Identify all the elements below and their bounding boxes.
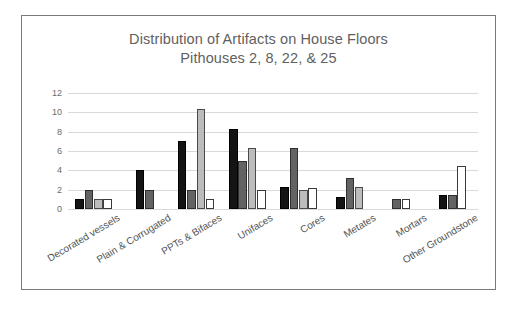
bar	[94, 199, 103, 209]
y-axis-tick-label: 4	[57, 165, 62, 175]
y-axis-tick-label: 10	[52, 107, 62, 117]
gridline: 0	[68, 209, 478, 210]
y-axis-tick-label: 0	[57, 204, 62, 214]
bar-group	[171, 93, 222, 209]
y-axis-tick-label: 12	[52, 88, 62, 98]
bar	[280, 187, 289, 209]
bar	[178, 141, 187, 209]
bar	[402, 199, 411, 209]
y-axis-tick-label: 2	[57, 185, 62, 195]
bar	[85, 190, 94, 209]
bar-group	[427, 93, 478, 209]
chart-container: Distribution of Artifacts on House Floor…	[21, 15, 496, 290]
bar	[355, 187, 364, 209]
x-axis-labels: Decorated vesselsPlain & CorrugatedPPTs …	[68, 212, 478, 312]
bar	[346, 178, 355, 209]
bar	[290, 148, 299, 209]
bar	[136, 170, 145, 209]
y-axis-tick-label: 8	[57, 127, 62, 137]
bars-layer	[68, 93, 478, 209]
bar-group	[119, 93, 170, 209]
bar	[448, 195, 457, 209]
bar-group	[68, 93, 119, 209]
bar-group	[324, 93, 375, 209]
bar	[248, 148, 257, 209]
x-axis-tick-label: Mortars	[394, 212, 429, 239]
bar	[145, 190, 154, 209]
bar	[187, 190, 196, 209]
chart-title-line1: Distribution of Artifacts on House Floor…	[129, 31, 388, 47]
bar	[75, 199, 84, 209]
bar	[206, 199, 215, 209]
bar	[457, 166, 466, 210]
y-axis-tick-label: 6	[57, 146, 62, 156]
chart-title: Distribution of Artifacts on House Floor…	[22, 30, 495, 68]
bar	[439, 195, 448, 210]
x-axis-tick-label: Cores	[298, 212, 327, 235]
bar	[229, 129, 238, 209]
bar	[103, 199, 112, 209]
bar	[238, 161, 247, 209]
bar	[308, 188, 317, 209]
bar-group	[376, 93, 427, 209]
bar	[299, 190, 308, 209]
plot-area: 024681012	[68, 93, 478, 209]
chart-title-line2: Pithouses 2, 8, 22, & 25	[22, 49, 495, 68]
x-axis-tick-label: Metates	[341, 212, 377, 240]
bar	[392, 199, 401, 209]
bar	[336, 197, 345, 209]
bar	[197, 109, 206, 209]
bar	[257, 190, 266, 209]
bar-group	[273, 93, 324, 209]
x-axis-tick-label: Unifaces	[236, 212, 275, 241]
bar-group	[222, 93, 273, 209]
